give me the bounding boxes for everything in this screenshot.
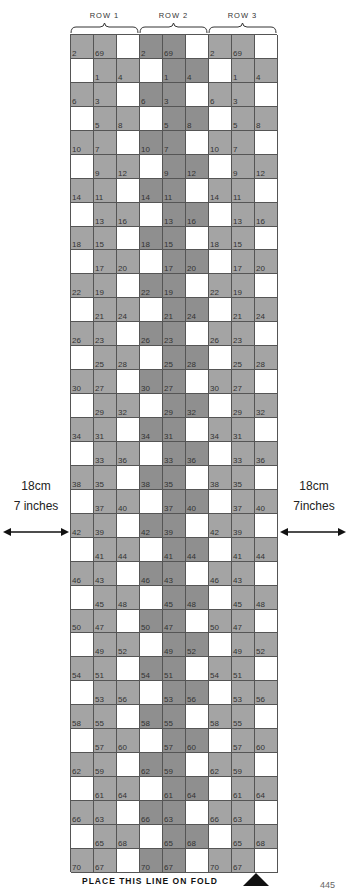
- grid-cell: [140, 729, 163, 753]
- cell-number: 59: [233, 768, 242, 776]
- grid-cell: [209, 107, 232, 131]
- grid-cell: 20: [117, 250, 140, 274]
- grid-cell: 42: [140, 514, 163, 538]
- grid-cell: 66: [71, 801, 94, 825]
- grid-cell: [255, 705, 278, 729]
- grid-cell: 34: [71, 418, 94, 442]
- cell-number: 54: [72, 672, 81, 680]
- grid-cell: [117, 418, 140, 442]
- cell-number: 42: [141, 529, 150, 537]
- grid-cell: 34: [209, 418, 232, 442]
- cell-number: 48: [118, 601, 127, 609]
- cell-number: 21: [95, 313, 104, 321]
- grid-cell: 68: [255, 825, 278, 849]
- cell-number: 1: [233, 74, 237, 82]
- grid-cell: [140, 442, 163, 466]
- cell-number: 69: [233, 50, 242, 58]
- grid-cell: [117, 514, 140, 538]
- grid-cell: 8: [117, 107, 140, 131]
- grid-cell: 31: [232, 418, 255, 442]
- grid-cell: 36: [255, 442, 278, 466]
- double-arrow-left-icon: [3, 527, 69, 537]
- grid-cell: 22: [140, 274, 163, 298]
- grid-cell: 61: [163, 777, 186, 801]
- grid-cell: 19: [94, 274, 117, 298]
- grid-cell: 40: [117, 490, 140, 514]
- cell-number: 51: [233, 672, 242, 680]
- grid-cell: 39: [163, 514, 186, 538]
- cell-number: 47: [164, 624, 173, 632]
- grid-cell: 10: [71, 131, 94, 155]
- cell-number: 29: [233, 409, 242, 417]
- cell-number: 32: [118, 409, 127, 417]
- cell-number: 18: [210, 241, 219, 249]
- grid-cell: [255, 370, 278, 394]
- grid-cell: 70: [140, 849, 163, 873]
- cell-number: 66: [210, 816, 219, 824]
- grid-cell: 48: [186, 586, 209, 610]
- grid-cell: 4: [186, 59, 209, 83]
- grid-cell: 13: [163, 203, 186, 227]
- cell-number: 1: [164, 74, 168, 82]
- grid-cell: [255, 274, 278, 298]
- grid-cell: [209, 586, 232, 610]
- grid-cell: 2: [140, 35, 163, 59]
- grid-cell: 29: [163, 394, 186, 418]
- grid-cell: [209, 155, 232, 179]
- grid-cell: 11: [232, 179, 255, 203]
- grid-cell: 49: [232, 633, 255, 657]
- cell-number: 35: [95, 481, 104, 489]
- cell-number: 42: [72, 529, 81, 537]
- cell-number: 55: [164, 720, 173, 728]
- grid-cell: 4: [117, 59, 140, 83]
- grid-cell: [255, 227, 278, 251]
- grid-cell: [71, 250, 94, 274]
- cell-number: 21: [164, 313, 173, 321]
- grid-cell: 53: [94, 681, 117, 705]
- grid-cell: 9: [232, 155, 255, 179]
- grid-cell: 27: [232, 370, 255, 394]
- grid-cell: 14: [71, 179, 94, 203]
- cell-number: 31: [233, 433, 242, 441]
- cell-number: 14: [210, 194, 219, 202]
- cell-number: 68: [187, 840, 196, 848]
- grid-cell: 62: [209, 753, 232, 777]
- cell-number: 64: [118, 792, 127, 800]
- cell-number: 30: [72, 385, 81, 393]
- grid-cell: [209, 681, 232, 705]
- cell-number: 38: [210, 481, 219, 489]
- grid-cell: [71, 107, 94, 131]
- cell-number: 57: [233, 744, 242, 752]
- grid-cell: [140, 538, 163, 562]
- grid-cell: [71, 490, 94, 514]
- grid-cell: 60: [117, 729, 140, 753]
- cell-number: 24: [118, 313, 127, 321]
- grid-cell: 29: [94, 394, 117, 418]
- cell-number: 60: [187, 744, 196, 752]
- cell-number: 59: [164, 768, 173, 776]
- grid-cell: 37: [232, 490, 255, 514]
- grid-cell: [186, 370, 209, 394]
- grid-cell: 6: [71, 83, 94, 107]
- grid-cell: 45: [94, 586, 117, 610]
- cell-number: 65: [95, 840, 104, 848]
- cell-number: 23: [95, 337, 104, 345]
- grid-cell: 67: [94, 849, 117, 873]
- cell-number: 58: [141, 720, 150, 728]
- cell-number: 66: [141, 816, 150, 824]
- cell-number: 9: [95, 170, 99, 178]
- grid-cell: 35: [232, 466, 255, 490]
- grid-cell: [140, 490, 163, 514]
- grid-cell: 61: [94, 777, 117, 801]
- cell-number: 63: [233, 816, 242, 824]
- grid-cell: 46: [140, 562, 163, 586]
- grid-cell: [140, 681, 163, 705]
- grid-cell: 19: [163, 274, 186, 298]
- cell-number: 70: [141, 864, 150, 872]
- grid-cell: 32: [255, 394, 278, 418]
- grid-cell: 40: [255, 490, 278, 514]
- cell-number: 17: [164, 265, 173, 273]
- cell-number: 65: [233, 840, 242, 848]
- page-number: 445: [320, 880, 335, 890]
- grid-cell: [255, 322, 278, 346]
